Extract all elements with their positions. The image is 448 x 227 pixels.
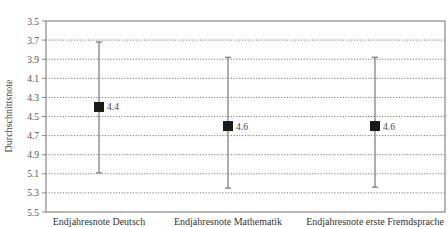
y-tick-label: 4.1 — [27, 74, 39, 84]
mean-marker — [370, 121, 380, 131]
error-bars: 4.44.64.6 — [94, 42, 395, 188]
y-tick-label: 5.1 — [27, 169, 39, 179]
y-tick-label: 5.3 — [27, 188, 39, 198]
error-bar-chart: 3.53.73.94.14.34.54.74.95.15.35.5 4.44.6… — [0, 0, 448, 227]
data-point-group: 4.6 — [370, 57, 395, 187]
data-label: 4.6 — [383, 122, 395, 132]
x-category-label: Endjahresnote Mathematik — [174, 216, 282, 227]
data-label: 4.4 — [107, 102, 119, 112]
y-tick-label: 4.9 — [27, 150, 39, 160]
x-category-label: Endjahresnote Deutsch — [53, 216, 145, 227]
y-tick-label: 3.7 — [27, 36, 39, 46]
mean-marker — [94, 102, 104, 112]
data-point-group: 4.6 — [223, 57, 248, 188]
y-tick-label: 4.5 — [27, 112, 39, 122]
x-category-label: Endjahresnote erste Fremdsprache — [306, 216, 444, 227]
data-label: 4.6 — [236, 122, 248, 132]
y-axis-ticks: 3.53.73.94.14.34.54.74.95.15.35.5 — [27, 17, 46, 218]
y-tick-label: 3.5 — [27, 17, 39, 27]
y-tick-label: 4.3 — [27, 93, 39, 103]
data-point-group: 4.4 — [94, 42, 119, 173]
y-axis-label: Durchschnittsnote — [3, 79, 14, 152]
mean-marker — [223, 121, 233, 131]
y-tick-label: 4.7 — [27, 131, 39, 141]
y-tick-label: 5.5 — [27, 208, 39, 218]
x-axis-categories: Endjahresnote DeutschEndjahresnote Mathe… — [53, 216, 445, 227]
y-tick-label: 3.9 — [27, 55, 39, 65]
gridlines — [46, 40, 445, 193]
